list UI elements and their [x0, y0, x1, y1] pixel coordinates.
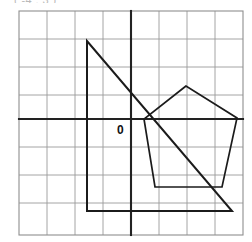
- axis-labels: 0: [117, 123, 124, 137]
- top-text-fragment: ( -4 , 3 ): [14, 0, 94, 3]
- geometry-plot: 0: [0, 0, 252, 242]
- coordinate-figure: ( -4 , 3 ): [0, 0, 252, 242]
- pentagon-shape: [144, 86, 237, 187]
- shapes-group: [87, 41, 237, 211]
- axes: [19, 11, 243, 235]
- origin-label: 0: [117, 123, 124, 137]
- triangle-shape: [87, 41, 232, 211]
